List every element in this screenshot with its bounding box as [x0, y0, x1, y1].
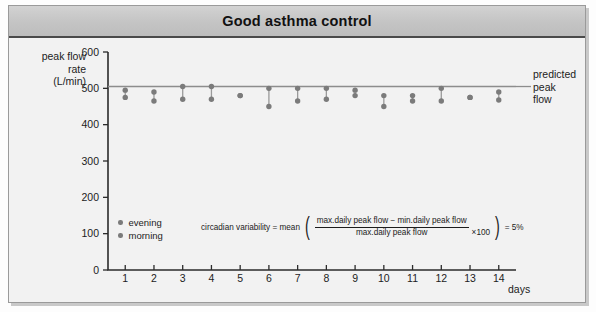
y-axis-label: peak flow rate (L/min) — [14, 50, 86, 88]
y-axis-label-line3: (L/min) — [53, 75, 86, 87]
legend-label-evening: evening — [129, 216, 162, 229]
plot-body-background — [9, 39, 585, 302]
formula-lead: circadian variability = mean — [201, 223, 300, 232]
asthma-peak-flow-figure: Good asthma control peak flow rate (L/mi… — [0, 0, 596, 312]
predicted-label-line3: flow — [533, 93, 552, 105]
figure-title-bar: Good asthma control — [9, 6, 585, 38]
legend-item-evening: evening — [118, 216, 163, 229]
formula-multiplier: ×100 — [472, 228, 490, 238]
predicted-peak-flow-label: predicted peak flow — [533, 68, 591, 106]
predicted-label-line1: predicted — [533, 68, 576, 80]
x-axis-label: days — [508, 283, 530, 295]
y-axis-label-line1: peak flow — [42, 50, 86, 62]
formula-open-paren: ( — [305, 217, 310, 237]
formula-denominator: max.daily peak flow — [354, 228, 429, 239]
formula-result: = 5% — [505, 223, 524, 232]
legend-label-morning: morning — [129, 229, 163, 242]
predicted-label-line2: peak — [533, 81, 556, 93]
formula-numerator: max.daily peak flow − min.daily peak flo… — [315, 216, 469, 228]
legend-item-morning: morning — [118, 229, 163, 242]
formula-fraction: max.daily peak flow − min.daily peak flo… — [315, 216, 469, 238]
legend-marker-evening-icon — [118, 220, 123, 225]
legend-marker-morning-icon — [118, 233, 123, 238]
circadian-variability-formula: circadian variability = mean ( max.daily… — [201, 216, 524, 238]
legend: evening morning — [118, 216, 163, 242]
formula-close-paren: ) — [495, 217, 500, 237]
y-axis-label-line2: rate — [68, 63, 86, 75]
page-title: Good asthma control — [222, 13, 372, 29]
